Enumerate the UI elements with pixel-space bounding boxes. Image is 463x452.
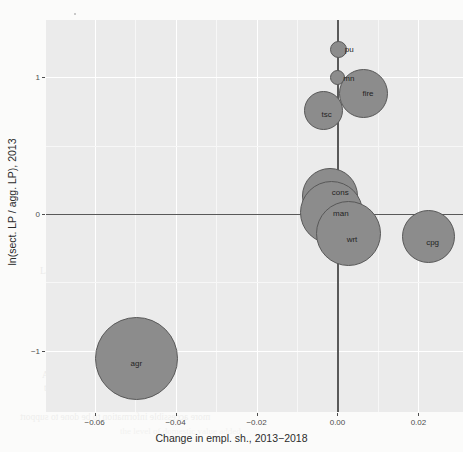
y-tick-mark: [42, 77, 45, 78]
plot-panel: pumnfiretscconsmanwrtcpgagr: [46, 20, 463, 412]
x-tick-mark: [418, 413, 419, 416]
gridline: [46, 282, 463, 283]
gridline: [46, 77, 463, 78]
x-tick-mark: [95, 413, 96, 416]
bubble-cpg[interactable]: [402, 210, 455, 263]
bubble-pu[interactable]: [330, 41, 347, 58]
gridline: [297, 20, 298, 412]
y-tick-mark: [42, 351, 45, 352]
bubble-tsc[interactable]: [304, 91, 343, 130]
y-tick-label: −1: [22, 346, 40, 355]
x-tick-label: −0.02: [246, 418, 266, 427]
gridline: [216, 20, 217, 412]
x-tick-label: −0.04: [165, 418, 185, 427]
y-tick-label: 0: [22, 209, 40, 218]
y-tick-label: 1: [22, 73, 40, 82]
x-tick-mark: [176, 413, 177, 416]
bubble-wrt[interactable]: [316, 201, 381, 266]
y-tick-mark: [42, 214, 45, 215]
x-tick-mark: [257, 413, 258, 416]
gridline: [46, 146, 463, 147]
scan-speck: [74, 13, 76, 15]
x-axis-title: Change in empl. sh., 2013−2018: [0, 432, 463, 444]
figure-canvas: 1.5.2 Economic Winds and PolicySectoral …: [0, 0, 463, 452]
x-tick-label: −0.06: [84, 418, 104, 427]
y-axis-title: ln(sect. LP / agg. LP), 2013: [6, 112, 18, 292]
bubble-fire[interactable]: [339, 69, 388, 118]
x-tick-label: 0.00: [330, 418, 346, 427]
gridline: [257, 20, 258, 412]
x-tick-label: 0.02: [411, 418, 427, 427]
bubble-agr[interactable]: [95, 317, 178, 400]
horizontal-zero-reference-line: [46, 214, 463, 215]
x-tick-mark: [337, 413, 338, 416]
